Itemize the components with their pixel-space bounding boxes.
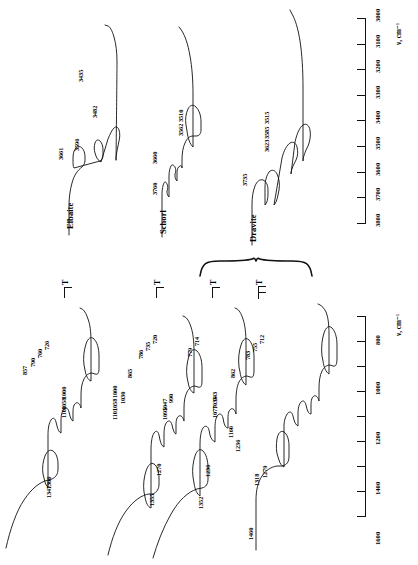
peak-label: 779 [187, 348, 193, 357]
t-label: T [256, 280, 264, 285]
t-label: T [210, 280, 218, 285]
peak-label: 862 [230, 369, 236, 378]
peak-label: 1236 [235, 440, 241, 452]
peak-label: 1279 [262, 466, 268, 478]
peak-label: 3515 [264, 112, 270, 124]
peak-label: 943 [212, 392, 218, 401]
peak-label: 1030 [120, 392, 126, 404]
curly-brace [196, 257, 316, 279]
peak-label: 786 [138, 350, 144, 359]
peak-label: 790 [30, 358, 36, 367]
peak-label: 1352 [198, 497, 204, 509]
peak-label: 3596 [74, 139, 80, 151]
spectrum-name-elbaite: Elbaite [66, 203, 75, 229]
peak-label: 857 [22, 366, 28, 375]
top-panel: 3000 3100 3200 3300 3400 3500 3600 3700 … [0, 0, 418, 290]
peak-label: 3660 [152, 152, 158, 164]
t-label: T [154, 280, 162, 285]
peak-label: 712 [259, 335, 265, 344]
peak-label: 1000 [61, 387, 67, 399]
peak-label: 783 [245, 351, 251, 360]
figure-canvas: 3000 3100 3200 3300 3400 3500 3600 3700 … [0, 0, 418, 565]
peak-label: 3661 [58, 148, 64, 160]
peak-label: 1460 [248, 528, 254, 540]
peak-label: 1306 [46, 477, 52, 489]
peak-label: 3735 [242, 174, 248, 186]
peak-label: 1160 [228, 426, 234, 438]
t-label: T [62, 280, 70, 285]
peak-label: 3510 [178, 110, 184, 122]
peak-label: 720 [152, 335, 158, 344]
peak-label: 865 [127, 369, 133, 378]
spectrum-curve-dravite [0, 0, 418, 290]
peak-label: 755 [252, 343, 258, 352]
peak-label: 990 [168, 394, 174, 403]
peak-label: 1318 [254, 474, 260, 486]
peak-label: 1058 [61, 398, 67, 410]
spectrum-name-schorl: Schorl [159, 210, 168, 234]
peak-label: 1270 [156, 464, 162, 476]
spectrum-name-dravite: Dravite [249, 214, 258, 242]
peak-label: 1000 [112, 386, 118, 398]
spectrum-curve-bottom-4 [0, 300, 418, 565]
peak-label: 3760 [152, 183, 158, 195]
peak-label: 3482 [92, 106, 98, 118]
peak-label: 1355 [149, 494, 155, 506]
peak-label: 3623 [264, 140, 270, 152]
peak-label: 3562 [178, 124, 184, 136]
peak-label: 714 [194, 337, 200, 346]
peak-label: 1236 [205, 465, 211, 477]
peak-label: 726 [44, 341, 50, 350]
peak-label: 3585 [264, 127, 270, 139]
bottom-panel: 800 1000 1200 1400 1600 ν, cm⁻¹ 1347 130… [0, 300, 418, 565]
peak-label: 1058 [112, 399, 118, 411]
peak-label: 760 [37, 349, 43, 358]
peak-label: 3435 [78, 70, 84, 82]
